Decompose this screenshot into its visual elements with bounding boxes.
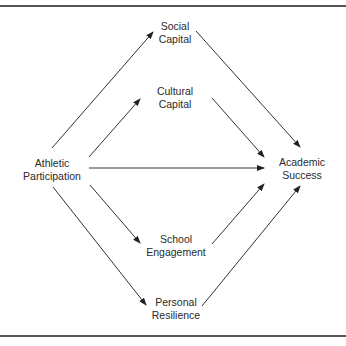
node-label-line1: Cultural: [157, 85, 193, 98]
node-academic-success: Academic Success: [279, 156, 325, 182]
node-label-line1: Social: [159, 20, 192, 33]
node-school-engagement: School Engagement: [146, 233, 206, 259]
node-label-line2: Success: [279, 169, 325, 182]
edge-resilience-to-academic: [202, 186, 300, 306]
edge-athletic-to-social: [52, 32, 153, 148]
node-social-capital: Social Capital: [159, 20, 192, 46]
node-label-line2: Engagement: [146, 246, 206, 259]
node-label-line1: Academic: [279, 156, 325, 169]
node-personal-resilience: Personal Resilience: [152, 296, 200, 322]
node-athletic-participation: Athletic Participation: [23, 157, 81, 183]
node-cultural-capital: Cultural Capital: [157, 85, 193, 111]
node-label-line2: Capital: [157, 98, 193, 111]
edge-athletic-to-resilience: [53, 187, 146, 305]
node-label-line2: Participation: [23, 170, 81, 183]
node-label-line1: School: [146, 233, 206, 246]
edge-athletic-to-school: [90, 185, 140, 243]
node-label-line2: Capital: [159, 33, 192, 46]
node-label-line1: Personal: [152, 296, 200, 309]
edge-social-to-academic: [196, 31, 300, 147]
edge-school-to-academic: [212, 184, 264, 244]
node-label-line2: Resilience: [152, 309, 200, 322]
node-label-line1: Athletic: [23, 157, 81, 170]
edge-athletic-to-cultural: [89, 99, 140, 157]
edge-cultural-to-academic: [212, 98, 264, 157]
